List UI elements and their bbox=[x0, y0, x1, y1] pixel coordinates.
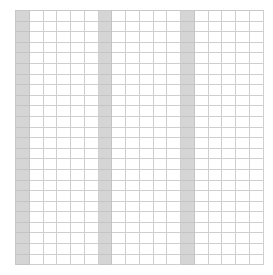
grid-cell bbox=[154, 191, 168, 202]
grid-cell bbox=[44, 11, 58, 22]
grid-cell bbox=[85, 75, 99, 86]
grid-cell bbox=[85, 128, 99, 139]
grid-cell bbox=[112, 22, 126, 33]
grid-cell bbox=[71, 117, 85, 128]
grid-cell-shaded bbox=[181, 191, 195, 202]
grid-cell bbox=[209, 202, 223, 213]
grid-cell bbox=[140, 244, 154, 255]
grid-cell bbox=[250, 149, 264, 160]
grid-cell bbox=[140, 170, 154, 181]
grid-cell bbox=[236, 223, 250, 234]
grid-cell-shaded bbox=[99, 128, 113, 139]
grid-cell-shaded bbox=[181, 170, 195, 181]
grid-cell bbox=[85, 64, 99, 75]
grid-cell bbox=[250, 85, 264, 96]
grid-cell bbox=[71, 170, 85, 181]
grid-cell-shaded bbox=[99, 233, 113, 244]
grid-cell bbox=[30, 75, 44, 86]
grid-cell bbox=[236, 159, 250, 170]
grid-cell bbox=[126, 11, 140, 22]
grid-cell bbox=[209, 233, 223, 244]
grid-cell bbox=[195, 149, 209, 160]
grid-cell-shaded bbox=[16, 53, 30, 64]
grid-cell bbox=[71, 32, 85, 43]
grid-cell bbox=[112, 106, 126, 117]
grid-cell bbox=[236, 202, 250, 213]
grid-cell-shaded bbox=[16, 149, 30, 160]
grid-cell bbox=[71, 202, 85, 213]
grid-cell bbox=[44, 96, 58, 107]
grid-cell bbox=[236, 138, 250, 149]
grid-cell bbox=[222, 106, 236, 117]
grid-cell-shaded bbox=[16, 223, 30, 234]
grid-cell bbox=[222, 22, 236, 33]
grid-cell-shaded bbox=[99, 43, 113, 54]
grid-cell bbox=[250, 75, 264, 86]
grid-cell bbox=[85, 212, 99, 223]
grid-cell bbox=[126, 43, 140, 54]
grid-cell bbox=[154, 128, 168, 139]
grid-cell bbox=[126, 64, 140, 75]
grid-cell bbox=[140, 53, 154, 64]
grid-cell bbox=[154, 212, 168, 223]
grid-cell-shaded bbox=[99, 212, 113, 223]
grid-cell bbox=[209, 117, 223, 128]
grid-cell bbox=[236, 85, 250, 96]
grid-cell bbox=[71, 223, 85, 234]
grid-cell bbox=[250, 202, 264, 213]
grid-cell bbox=[126, 22, 140, 33]
grid-cell bbox=[44, 212, 58, 223]
grid-cell bbox=[112, 191, 126, 202]
grid-cell bbox=[112, 149, 126, 160]
grid-cell bbox=[30, 11, 44, 22]
grid-cell bbox=[44, 149, 58, 160]
grid-cell bbox=[30, 128, 44, 139]
grid-cell bbox=[222, 138, 236, 149]
grid-cell bbox=[57, 75, 71, 86]
grid-cell bbox=[44, 233, 58, 244]
grid-cell bbox=[112, 128, 126, 139]
grid-cell-shaded bbox=[181, 106, 195, 117]
grid-cell bbox=[126, 117, 140, 128]
grid-cell-shaded bbox=[16, 85, 30, 96]
grid-cell-shaded bbox=[16, 43, 30, 54]
grid-cell bbox=[167, 149, 181, 160]
grid-cell bbox=[195, 22, 209, 33]
grid-cell bbox=[112, 223, 126, 234]
grid-cell bbox=[222, 212, 236, 223]
grid-cell bbox=[154, 223, 168, 234]
grid-cell bbox=[85, 96, 99, 107]
grid-cell bbox=[126, 96, 140, 107]
grid-cell bbox=[112, 159, 126, 170]
grid-cell bbox=[222, 149, 236, 160]
grid-cell bbox=[30, 181, 44, 192]
grid-cell bbox=[71, 181, 85, 192]
grid-cell bbox=[57, 244, 71, 255]
grid-cell bbox=[250, 233, 264, 244]
grid-cell bbox=[250, 159, 264, 170]
grid-cell-shaded bbox=[181, 75, 195, 86]
grid-cell bbox=[209, 255, 223, 266]
grid-cell bbox=[140, 128, 154, 139]
grid-cell bbox=[112, 11, 126, 22]
grid-cell bbox=[126, 106, 140, 117]
grid-cell bbox=[209, 64, 223, 75]
grid-cell bbox=[44, 43, 58, 54]
grid-cell bbox=[30, 159, 44, 170]
grid-cell bbox=[140, 32, 154, 43]
grid-cell-shaded bbox=[99, 138, 113, 149]
grid-cell bbox=[85, 106, 99, 117]
grid-cell bbox=[154, 96, 168, 107]
grid-cell-shaded bbox=[181, 223, 195, 234]
grid-cell bbox=[112, 181, 126, 192]
grid-cell bbox=[85, 233, 99, 244]
grid-cell bbox=[250, 53, 264, 64]
grid-cell-shaded bbox=[181, 202, 195, 213]
grid-cell bbox=[195, 255, 209, 266]
grid-cell bbox=[71, 191, 85, 202]
grid-cell bbox=[167, 244, 181, 255]
grid-cell bbox=[71, 244, 85, 255]
grid-cell bbox=[112, 117, 126, 128]
grid-cell-shaded bbox=[99, 32, 113, 43]
grid-cell bbox=[167, 128, 181, 139]
